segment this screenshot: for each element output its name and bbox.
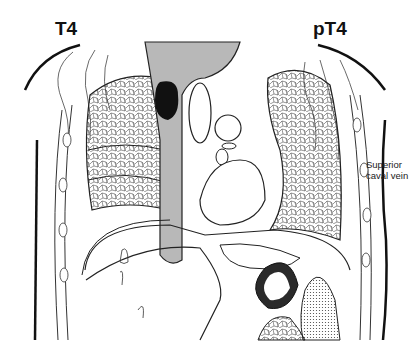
tumor: [155, 81, 178, 120]
thorax-diagram: T4 pT4 Superior caval vein: [0, 0, 420, 352]
thorax-illustration: [0, 0, 420, 352]
spleen: [301, 277, 340, 340]
annotation-line-1: Superior: [366, 159, 408, 170]
left-lung: [268, 70, 342, 240]
stage-label-t4: T4: [55, 18, 77, 40]
left-outer-arc: [25, 45, 80, 90]
annotation-line-2: caval vein: [366, 170, 408, 181]
annotation-superior-caval-vein: Superior caval vein: [366, 159, 408, 181]
stage-label-pt4: pT4: [313, 18, 347, 40]
liver: [86, 247, 221, 340]
